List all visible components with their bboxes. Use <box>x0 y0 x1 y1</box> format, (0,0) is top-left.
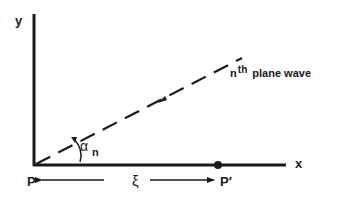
xi-distance-label: ξ <box>132 172 139 189</box>
wave-th: th <box>238 64 247 75</box>
point-p-prime-dot <box>214 161 222 169</box>
angle-symbol: α <box>80 138 88 154</box>
point-p-label: P <box>27 174 36 189</box>
wave-text: plane wave <box>252 67 311 79</box>
angle-alpha-label: α n <box>80 138 99 158</box>
plane-wave-line <box>36 58 242 164</box>
angle-subscript: n <box>92 146 99 158</box>
plane-wave-diagram: y x P P′ ξ α n n th plane wave <box>0 0 348 201</box>
plane-wave-label: n th plane wave <box>230 63 311 79</box>
x-axis-label: x <box>295 156 303 171</box>
y-axis-label: y <box>15 13 23 28</box>
wave-n: n <box>230 67 237 79</box>
point-p-prime-label: P′ <box>220 174 232 189</box>
